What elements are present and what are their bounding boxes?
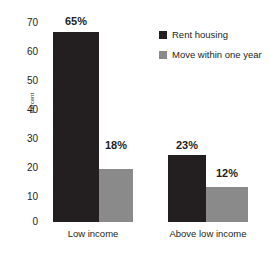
bar-value-low-income-rent-housing: 65% — [46, 16, 106, 27]
bar-value-low-income-move-within-one-year: 18% — [86, 140, 146, 151]
legend-label-move-within-one-year: Move within one year — [172, 50, 262, 60]
dark-square-swatch-icon — [159, 31, 167, 39]
bar-low-income-move-within-one-year — [99, 169, 133, 222]
bar-value-above-low-income-rent-housing: 23% — [157, 140, 217, 151]
legend-label-rent-housing: Rent housing — [172, 30, 228, 40]
legend-item-rent-housing: Rent housing — [159, 29, 262, 40]
bar-chart: Percent 70 60 50 40 30 20 10 0 65% 18% L… — [0, 0, 270, 258]
bar-above-low-income-rent-housing — [168, 155, 206, 222]
bar-value-above-low-income-move-within-one-year: 12% — [197, 168, 257, 179]
category-label-above-low-income: Above low income — [163, 228, 253, 239]
bar-low-income-rent-housing — [53, 32, 99, 222]
gray-square-swatch-icon — [159, 51, 167, 59]
legend: Rent housing Move within one year — [159, 29, 262, 69]
legend-item-move-within-one-year: Move within one year — [159, 49, 262, 60]
bar-above-low-income-move-within-one-year — [206, 187, 248, 222]
category-label-low-income: Low income — [53, 228, 133, 239]
